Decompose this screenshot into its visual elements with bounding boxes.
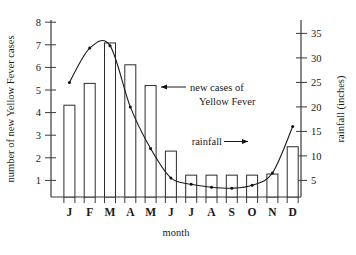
bar-s-8 (226, 175, 237, 197)
month-label-oct: O (248, 206, 257, 218)
month-axis-ticks (64, 197, 298, 203)
rainfall-marker-d-11 (291, 125, 294, 128)
left-axis-title: number of new Yellow Fever cases (5, 36, 16, 183)
left-tick-label-1: 1 (36, 175, 41, 186)
annotation-new-cases-line2: Yellow Fever (199, 96, 256, 107)
month-label-feb: F (86, 206, 93, 218)
rainfall-marker-a-3 (129, 105, 132, 108)
rainfall-marker-j-5 (169, 176, 172, 179)
right-tick-label-25: 25 (311, 77, 322, 88)
annotation-new-cases-line1: new cases of (190, 82, 244, 93)
right-tick-label-5: 5 (311, 175, 316, 186)
month-label-jul: J (188, 206, 194, 218)
chart-container: 1 2 3 4 5 6 7 8 number of new Yellow Fev… (0, 0, 356, 255)
rainfall-marker-f-1 (88, 47, 91, 50)
left-tick-label-5: 5 (36, 85, 41, 96)
yellow-fever-rainfall-chart: 1 2 3 4 5 6 7 8 number of new Yellow Fev… (0, 0, 356, 255)
bar-j-0 (64, 105, 75, 197)
right-tick-label-35: 35 (311, 28, 322, 39)
month-label-may: M (145, 206, 156, 218)
annotation-new-cases: new cases of Yellow Fever (161, 82, 256, 108)
rainfall-curve (69, 41, 292, 189)
rainfall-marker-a-7 (210, 186, 213, 189)
annotation-rainfall: rainfall (192, 136, 248, 147)
left-tick-label-2: 2 (36, 153, 41, 164)
month-axis-labels: J F M A M J J A S O N D (67, 206, 297, 218)
right-tick-label-20: 20 (311, 102, 322, 113)
rainfall-marker-s-8 (230, 187, 233, 190)
left-tick-label-3: 3 (36, 130, 41, 141)
right-tick-label-10: 10 (311, 151, 322, 162)
bar-d-11 (287, 147, 298, 197)
left-tick-label-8: 8 (36, 17, 41, 28)
right-tick-label-15: 15 (311, 126, 322, 137)
left-tick-label-7: 7 (36, 40, 41, 51)
month-label-aug: A (207, 206, 216, 218)
month-label-nov: N (268, 206, 277, 218)
left-tick-label-6: 6 (36, 62, 41, 73)
left-axis-tick-labels: 1 2 3 4 5 6 7 8 (36, 17, 42, 186)
month-label-jan: J (67, 206, 73, 218)
annotation-rainfall-label: rainfall (192, 136, 222, 147)
rainfall-marker-j-6 (190, 183, 193, 186)
right-tick-label-30: 30 (311, 53, 322, 64)
right-axis-tick-labels: 5 10 15 20 25 30 35 (311, 28, 322, 186)
rainfall-marker-m-4 (149, 147, 152, 150)
rainfall-marker-m-2 (109, 44, 112, 47)
bar-f-1 (84, 83, 95, 197)
right-axis-title: rainfall (inches) (335, 75, 347, 142)
month-label-dec: D (289, 206, 297, 218)
month-label-jun: J (168, 206, 174, 218)
rainfall-marker-o-9 (251, 184, 254, 187)
bars-group (64, 43, 298, 197)
x-axis-title: month (163, 227, 191, 238)
rainfall-data-markers (68, 44, 294, 190)
rainfall-marker-n-10 (271, 172, 274, 175)
month-label-mar: M (105, 206, 116, 218)
rainfall-marker-j-0 (68, 81, 71, 84)
bar-j-6 (186, 175, 197, 197)
left-tick-label-4: 4 (36, 107, 42, 118)
bar-m-2 (105, 43, 116, 197)
month-label-apr: A (126, 206, 135, 218)
bar-a-3 (125, 65, 136, 197)
month-label-sep: S (229, 206, 235, 218)
